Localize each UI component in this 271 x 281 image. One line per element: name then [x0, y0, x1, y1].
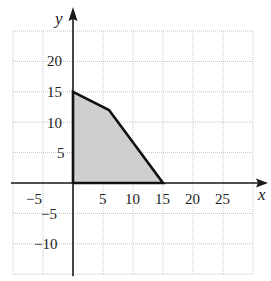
- y-axis-label: y: [53, 9, 63, 28]
- y-axis-arrow-icon: [69, 7, 78, 21]
- x-tick-label: 5: [99, 191, 107, 207]
- y-tick-label: 20: [47, 53, 62, 69]
- x-axis-label: x: [257, 185, 266, 204]
- x-tick-label: 15: [155, 191, 170, 207]
- shaded-region: [73, 92, 163, 183]
- x-tick-label: 20: [185, 191, 200, 207]
- x-tick-label: −5: [26, 191, 42, 207]
- y-tick-label: −10: [34, 236, 57, 252]
- x-tick-label: 10: [125, 191, 140, 207]
- y-tick-label: 15: [47, 84, 62, 100]
- x-tick-label: 25: [215, 191, 230, 207]
- y-tick-label: 10: [47, 115, 62, 131]
- y-tick-label: 5: [57, 145, 65, 161]
- coordinate-plane: x y −5 5 10 15 20 25 −10 −5 5 10 15 20: [0, 0, 271, 281]
- y-tick-label: −5: [41, 206, 57, 222]
